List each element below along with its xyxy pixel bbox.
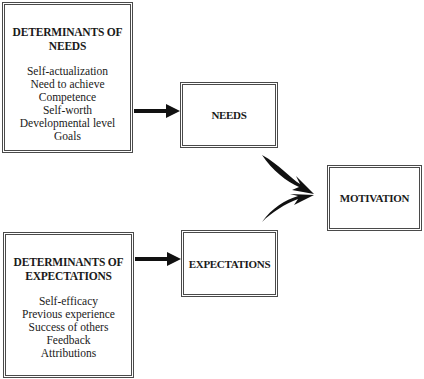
expectations-label: EXPECTATIONS — [189, 258, 271, 270]
expectations-box: EXPECTATIONS — [181, 230, 278, 297]
list-item: Self-actualization — [20, 65, 115, 78]
list-item: Success of others — [22, 321, 115, 334]
list-item: Previous experience — [22, 308, 115, 321]
determinants-of-needs-title: DETERMINANTS OF NEEDS — [13, 25, 123, 53]
title-line: EXPECTATIONS — [14, 269, 124, 283]
arrow-expectations-determinants-to-expectations — [135, 252, 181, 266]
determinants-of-expectations-list: Self-efficacy Previous experience Succes… — [22, 295, 115, 360]
motivation-label: MOTIVATION — [340, 192, 409, 204]
title-line: NEEDS — [13, 39, 123, 53]
title-line: DETERMINANTS OF — [14, 255, 124, 269]
motivation-box: MOTIVATION — [327, 165, 422, 231]
list-item: Self-efficacy — [22, 295, 115, 308]
arrow-expectations-to-motivation — [262, 194, 314, 222]
list-item: Attributions — [22, 347, 115, 360]
list-item: Self-worth — [20, 104, 115, 117]
determinants-of-needs-list: Self-actualization Need to achieve Compe… — [20, 65, 115, 143]
determinants-of-expectations-title: DETERMINANTS OF EXPECTATIONS — [14, 255, 124, 283]
arrow-needs-to-motivation — [262, 155, 314, 194]
list-item: Need to achieve — [20, 78, 115, 91]
list-item: Goals — [20, 130, 115, 143]
title-line: DETERMINANTS OF — [13, 25, 123, 39]
list-item: Developmental level — [20, 117, 115, 130]
arrow-needs-determinants-to-needs — [134, 104, 180, 118]
list-item: Feedback — [22, 334, 115, 347]
needs-box: NEEDS — [180, 82, 278, 148]
determinants-of-expectations-box: DETERMINANTS OF EXPECTATIONS Self-effica… — [3, 232, 134, 378]
list-item: Competence — [20, 91, 115, 104]
determinants-of-needs-box: DETERMINANTS OF NEEDS Self-actualization… — [2, 2, 133, 153]
needs-label: NEEDS — [211, 109, 246, 121]
